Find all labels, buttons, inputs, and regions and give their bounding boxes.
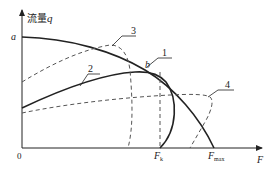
curve-2-label: 2 xyxy=(88,64,93,74)
point-a-label: a xyxy=(11,32,16,42)
y-axis-label-cn: 流量 xyxy=(27,13,47,24)
curve-1 xyxy=(22,37,214,148)
origin-label: 0 xyxy=(17,152,22,161)
tick-fmax: Fmax xyxy=(208,151,224,162)
curve-4-label: 4 xyxy=(225,80,230,90)
tick-fmax-sub: max xyxy=(214,156,224,162)
curve-3-label: 3 xyxy=(131,26,136,36)
tick-fk-sub: k xyxy=(160,156,163,162)
y-axis-label-var: q xyxy=(47,12,53,24)
curve-2 xyxy=(22,72,174,148)
leader-2 xyxy=(80,74,100,86)
curve-1-label: 1 xyxy=(162,48,167,58)
leader-3 xyxy=(112,36,136,46)
leader-1 xyxy=(147,58,172,67)
y-axis-label: 流量q xyxy=(27,13,53,24)
point-b-label: b xyxy=(145,60,150,70)
x-axis-label: F xyxy=(257,155,263,165)
tick-fk: Fk xyxy=(154,151,163,162)
curve-3-dashed xyxy=(22,45,132,148)
diagram-canvas xyxy=(0,0,277,169)
leader-4 xyxy=(208,90,234,97)
